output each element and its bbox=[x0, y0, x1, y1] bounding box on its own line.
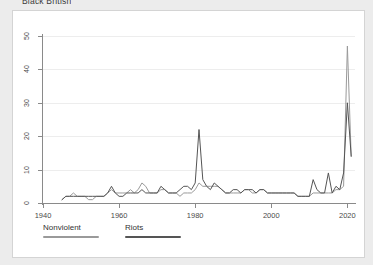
y-tick-20 bbox=[38, 136, 42, 137]
page-title: Black British bbox=[22, 0, 71, 5]
y-tick-label-0: 0 bbox=[23, 195, 31, 211]
chart-screenshot: Black British 01020304050194019601980200… bbox=[0, 0, 373, 265]
y-tick-label-50: 50 bbox=[23, 28, 31, 44]
x-tick-2020 bbox=[347, 204, 348, 208]
chart-legend: Nonviolent Riots bbox=[43, 223, 181, 238]
x-tick-label-1940: 1940 bbox=[26, 211, 60, 220]
x-tick-label-2000: 2000 bbox=[254, 211, 288, 220]
x-tick-label-1980: 1980 bbox=[178, 211, 212, 220]
y-tick-label-40: 40 bbox=[23, 61, 31, 77]
x-tick-label-1960: 1960 bbox=[102, 211, 136, 220]
x-axis-line bbox=[42, 203, 356, 204]
legend-item-nonviolent[interactable]: Nonviolent bbox=[43, 223, 99, 238]
legend-label-riots: Riots bbox=[125, 223, 181, 232]
legend-swatch-riots bbox=[125, 236, 181, 238]
y-tick-30 bbox=[38, 103, 42, 104]
x-tick-1940 bbox=[43, 204, 44, 208]
y-tick-40 bbox=[38, 69, 42, 70]
y-tick-10 bbox=[38, 170, 42, 171]
series-line-nonviolent bbox=[62, 46, 351, 200]
y-tick-50 bbox=[38, 36, 42, 37]
y-tick-0 bbox=[38, 203, 42, 204]
plot-inner: 0102030405019401960198020002020 bbox=[43, 36, 355, 203]
y-tick-label-20: 20 bbox=[23, 128, 31, 144]
chart-card: 0102030405019401960198020002020 Nonviole… bbox=[12, 10, 365, 258]
x-tick-1960 bbox=[119, 204, 120, 208]
y-tick-label-30: 30 bbox=[23, 95, 31, 111]
legend-swatch-nonviolent bbox=[43, 236, 99, 238]
legend-label-nonviolent: Nonviolent bbox=[43, 223, 99, 232]
y-tick-label-10: 10 bbox=[23, 162, 31, 178]
legend-item-riots[interactable]: Riots bbox=[125, 223, 181, 238]
x-tick-1980 bbox=[195, 204, 196, 208]
x-tick-2000 bbox=[271, 204, 272, 208]
series-canvas bbox=[43, 36, 355, 203]
plot-area: 0102030405019401960198020002020 bbox=[43, 36, 355, 203]
x-tick-label-2020: 2020 bbox=[330, 211, 364, 220]
series-line-riots bbox=[62, 103, 351, 200]
